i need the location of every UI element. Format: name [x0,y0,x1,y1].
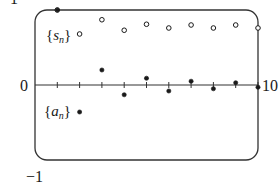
a-point [234,81,238,85]
y-label-zero: 0 [20,77,28,94]
a-point [211,87,215,91]
s-series-points [55,8,260,37]
a-point [144,76,148,80]
a-series-label: {an} [44,103,71,121]
s-point [189,23,194,28]
x-label-right: 10 [262,77,278,94]
y-label-bottom: −1 [26,168,43,185]
a-point [122,93,126,97]
s-series-label: {sn} [46,27,71,45]
s-point [144,22,149,27]
s-point [77,32,82,37]
s-point [211,26,216,31]
y-label-top: 1 [10,0,18,7]
sequence-plot: 1 0 −1 10 {sn} {an} [0,0,280,186]
a-point [100,68,104,72]
a-point [55,8,59,12]
a-point [167,89,171,93]
a-point [189,79,193,83]
a-series-points [55,8,260,114]
s-point [233,23,238,28]
s-point [256,26,261,31]
s-point [100,17,105,22]
s-point [167,26,172,31]
a-point [78,110,82,114]
s-point [122,28,127,33]
a-point [256,85,260,89]
